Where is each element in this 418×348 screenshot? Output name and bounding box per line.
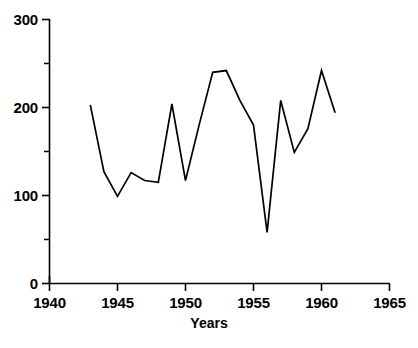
x-tick-label-1945: 1945 xyxy=(89,294,146,311)
x-tick-label-1950: 1950 xyxy=(157,294,214,311)
y-tick-label-300: 300 xyxy=(4,11,38,28)
data-series-line xyxy=(90,71,335,233)
x-axis-title: Years xyxy=(0,315,418,331)
x-tick-label-1940: 1940 xyxy=(21,294,78,311)
y-tick-label-0: 0 xyxy=(4,275,38,292)
y-tick-label-100: 100 xyxy=(4,187,38,204)
x-tick-label-1965: 1965 xyxy=(361,294,418,311)
x-tick-label-1960: 1960 xyxy=(293,294,350,311)
y-tick-label-200: 200 xyxy=(4,99,38,116)
y-axis-minor-ticks xyxy=(44,64,50,240)
x-tick-label-1955: 1955 xyxy=(225,294,282,311)
line-chart: 300 200 100 0 1940 1945 1950 1955 1960 1… xyxy=(0,0,418,348)
